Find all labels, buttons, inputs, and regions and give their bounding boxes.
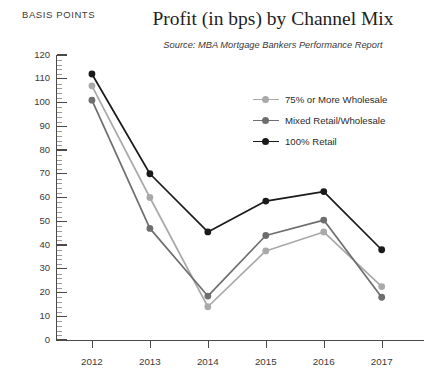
y-axis-minor-tick bbox=[57, 74, 62, 75]
x-axis-tick-label: 2013 bbox=[125, 356, 175, 367]
legend-item[interactable]: 100% Retail bbox=[253, 131, 387, 152]
data-point-marker bbox=[204, 229, 211, 236]
x-axis-tick bbox=[208, 341, 209, 348]
legend-swatch-icon bbox=[253, 137, 279, 147]
y-axis-minor-tick bbox=[57, 107, 62, 108]
y-axis-minor-tick bbox=[57, 98, 62, 99]
y-axis-minor-tick bbox=[57, 164, 62, 165]
y-axis-minor-tick bbox=[57, 93, 62, 94]
y-axis-minor-tick bbox=[57, 145, 62, 146]
y-axis-minor-tick bbox=[57, 112, 62, 113]
legend-swatch-icon bbox=[253, 95, 279, 105]
y-axis-tick bbox=[57, 221, 67, 222]
y-axis-tick bbox=[57, 102, 67, 103]
y-axis-minor-tick bbox=[57, 60, 62, 61]
y-axis-tick-label: 60 bbox=[16, 191, 50, 202]
y-axis-minor-tick bbox=[57, 283, 62, 284]
data-point-marker bbox=[146, 225, 153, 232]
x-axis-tick bbox=[324, 341, 325, 348]
chart-source-note: Source: MBA Mortgage Bankers Performance… bbox=[118, 40, 428, 50]
y-axis-minor-tick bbox=[57, 226, 62, 227]
data-point-marker bbox=[262, 232, 269, 239]
y-axis-minor-tick bbox=[57, 169, 62, 170]
y-axis-minor-tick bbox=[57, 274, 62, 275]
y-axis-tick bbox=[57, 244, 67, 245]
y-axis-minor-tick bbox=[57, 88, 62, 89]
data-point-marker bbox=[378, 283, 385, 290]
y-axis-minor-tick bbox=[57, 122, 62, 123]
y-axis-tick-label: 50 bbox=[16, 215, 50, 226]
legend-item-label: 75% or More Wholesale bbox=[285, 94, 387, 105]
legend-swatch-icon bbox=[253, 116, 279, 126]
x-axis-tick-label: 2012 bbox=[67, 356, 117, 367]
data-point-marker bbox=[204, 303, 211, 310]
x-axis-tick bbox=[266, 341, 267, 348]
y-axis-minor-tick bbox=[57, 117, 62, 118]
series-layer bbox=[0, 0, 434, 386]
y-axis-minor-tick bbox=[57, 236, 62, 237]
y-axis-tick-label: 80 bbox=[16, 144, 50, 155]
legend-item[interactable]: Mixed Retail/Wholesale bbox=[253, 110, 387, 131]
y-axis-minor-tick bbox=[57, 335, 62, 336]
y-axis-minor-tick bbox=[57, 240, 62, 241]
y-axis-minor-tick bbox=[57, 278, 62, 279]
y-axis-minor-tick bbox=[57, 207, 62, 208]
data-point-marker bbox=[320, 229, 327, 236]
y-axis-minor-tick bbox=[57, 288, 62, 289]
data-point-marker bbox=[378, 246, 385, 253]
y-axis-minor-tick bbox=[57, 193, 62, 194]
y-axis-tick bbox=[57, 339, 67, 340]
data-point-marker bbox=[146, 194, 153, 201]
data-point-marker bbox=[262, 198, 269, 205]
y-axis-minor-tick bbox=[57, 302, 62, 303]
data-point-marker bbox=[89, 97, 96, 104]
y-axis-tick-label: 120 bbox=[16, 49, 50, 60]
y-axis-minor-tick bbox=[57, 160, 62, 161]
y-axis-tick bbox=[57, 292, 67, 293]
y-axis-minor-tick bbox=[57, 250, 62, 251]
x-axis-tick-label: 2017 bbox=[357, 356, 407, 367]
y-axis-minor-tick bbox=[57, 188, 62, 189]
y-axis-minor-tick bbox=[57, 136, 62, 137]
y-axis-minor-tick bbox=[57, 183, 62, 184]
y-axis-minor-tick bbox=[57, 179, 62, 180]
y-axis-tick-label: 70 bbox=[16, 167, 50, 178]
y-axis-minor-tick bbox=[57, 231, 62, 232]
x-axis-tick-label: 2016 bbox=[299, 356, 349, 367]
y-axis-unit-label: BASIS POINTS bbox=[22, 9, 95, 20]
y-axis-minor-tick bbox=[57, 202, 62, 203]
x-axis-line bbox=[56, 340, 424, 341]
y-axis-tick bbox=[57, 316, 67, 317]
y-axis-minor-tick bbox=[57, 331, 62, 332]
y-axis-minor-tick bbox=[57, 155, 62, 156]
legend-item-label: 100% Retail bbox=[285, 136, 337, 147]
y-axis-minor-tick bbox=[57, 255, 62, 256]
chart-container: BASIS POINTS Profit (in bps) by Channel … bbox=[0, 0, 434, 386]
x-axis-tick bbox=[382, 341, 383, 348]
legend-item-label: Mixed Retail/Wholesale bbox=[285, 115, 385, 126]
y-axis-minor-tick bbox=[57, 321, 62, 322]
y-axis-tick-label: 100 bbox=[16, 96, 50, 107]
x-axis-tick bbox=[92, 341, 93, 348]
y-axis-tick bbox=[57, 149, 67, 150]
y-axis-tick bbox=[57, 126, 67, 127]
x-axis-tick bbox=[150, 341, 151, 348]
y-axis-minor-tick bbox=[57, 212, 62, 213]
y-axis-minor-tick bbox=[57, 217, 62, 218]
y-axis-tick-label: 110 bbox=[16, 72, 50, 83]
y-axis-minor-tick bbox=[57, 259, 62, 260]
y-axis-tick-label: 0 bbox=[16, 334, 50, 345]
y-axis-tick-label: 20 bbox=[16, 286, 50, 297]
y-axis-tick-label: 10 bbox=[16, 310, 50, 321]
data-point-marker bbox=[378, 294, 385, 301]
y-axis-minor-tick bbox=[57, 65, 62, 66]
legend-item[interactable]: 75% or More Wholesale bbox=[253, 89, 387, 110]
y-axis-tick-label: 90 bbox=[16, 120, 50, 131]
y-axis-tick bbox=[57, 268, 67, 269]
data-point-marker bbox=[320, 217, 327, 224]
data-point-marker bbox=[320, 188, 327, 195]
y-axis-minor-tick bbox=[57, 312, 62, 313]
data-point-marker bbox=[204, 293, 211, 300]
data-point-marker bbox=[262, 248, 269, 255]
y-axis-minor-tick bbox=[57, 326, 62, 327]
